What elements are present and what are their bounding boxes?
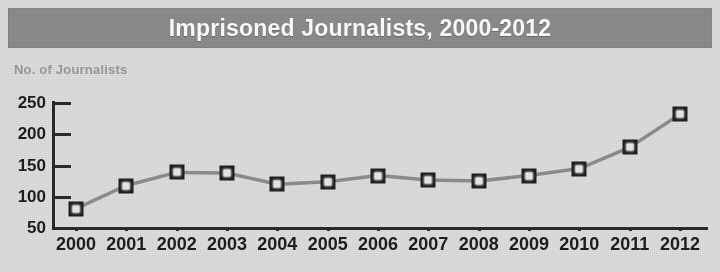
data-point-center bbox=[375, 172, 382, 179]
data-point-center bbox=[274, 181, 281, 188]
page-title: Imprisoned Journalists, 2000-2012 bbox=[169, 15, 551, 42]
data-point-center bbox=[425, 176, 432, 183]
data-point-center bbox=[224, 170, 231, 177]
data-point-center bbox=[626, 144, 633, 151]
data-point-2008 bbox=[471, 174, 486, 189]
data-point-center bbox=[324, 178, 331, 185]
data-point-center bbox=[173, 169, 180, 176]
data-point-2010 bbox=[572, 161, 587, 176]
data-line bbox=[0, 48, 720, 272]
data-point-center bbox=[526, 172, 533, 179]
data-point-2007 bbox=[421, 172, 436, 187]
chart-canvas: No. of Journalists 50100150200250 200020… bbox=[0, 48, 720, 272]
data-point-2000 bbox=[69, 201, 84, 216]
data-point-2005 bbox=[320, 174, 335, 189]
data-point-2012 bbox=[673, 107, 688, 122]
chart-page: Imprisoned Journalists, 2000-2012 No. of… bbox=[0, 0, 720, 272]
data-point-2011 bbox=[622, 140, 637, 155]
data-point-center bbox=[576, 165, 583, 172]
data-point-2002 bbox=[169, 165, 184, 180]
data-point-center bbox=[677, 111, 684, 118]
data-point-2009 bbox=[522, 168, 537, 183]
data-point-2004 bbox=[270, 177, 285, 192]
data-point-2001 bbox=[119, 178, 134, 193]
data-point-center bbox=[123, 182, 130, 189]
data-point-center bbox=[73, 205, 80, 212]
chart-title-bar: Imprisoned Journalists, 2000-2012 bbox=[8, 8, 712, 48]
data-point-2003 bbox=[220, 166, 235, 181]
data-point-center bbox=[475, 178, 482, 185]
data-point-2006 bbox=[371, 168, 386, 183]
